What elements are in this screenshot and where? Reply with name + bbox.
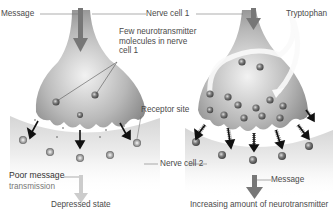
label-increasing-neurotransmitter: Increasing amount of neurotransmitter: [190, 200, 328, 210]
label-message-top: Message: [1, 9, 34, 19]
label-few-neurotransmitter: Few neurotransmitter molecules in nerve …: [119, 27, 196, 56]
label-poor-message: Poor message: [9, 171, 64, 181]
label-receptor-site: Receptor site: [141, 105, 189, 115]
label-nerve-cell-1: Nerve cell 1: [146, 9, 189, 19]
label-nerve-cell-2: Nerve cell 2: [160, 159, 203, 169]
few-neuro-line-2: molecules in nerve: [119, 37, 196, 47]
label-tryptophan: Tryptophan: [286, 9, 327, 19]
label-depressed-state: Depressed state: [51, 200, 111, 210]
few-neuro-line-3: cell 1: [119, 46, 196, 56]
label-message-bottom: Message: [271, 175, 304, 185]
few-neuro-line-1: Few neurotransmitter: [119, 27, 196, 37]
label-transmission: transmission: [9, 182, 55, 192]
